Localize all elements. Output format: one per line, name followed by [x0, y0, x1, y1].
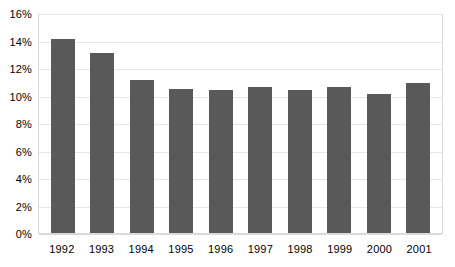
x-axis-tick-label: 1996	[208, 243, 233, 255]
bar	[90, 53, 114, 233]
bar	[327, 87, 351, 233]
bar	[130, 80, 154, 233]
bar-slot	[122, 15, 162, 233]
x-axis-tick-label: 2000	[367, 243, 392, 255]
x-axis-tick-slot: 1992	[42, 239, 82, 257]
x-axis-tick-slot: 1994	[121, 239, 161, 257]
x-axis-tick-label: 1997	[248, 243, 273, 255]
x-axis-tick-slot: 1996	[201, 239, 241, 257]
y-axis-tick-label: 12%	[9, 63, 32, 75]
x-axis-tick-label: 2001	[407, 243, 432, 255]
x-axis: 1992199319941995199619971998199920002001	[38, 239, 443, 257]
y-axis-tick-label: 8%	[16, 118, 32, 130]
gridline	[39, 234, 442, 235]
bar	[367, 94, 391, 233]
y-axis-tick-label: 0%	[16, 228, 32, 240]
x-axis-tick-label: 1998	[287, 243, 312, 255]
bar	[406, 83, 430, 233]
x-axis-tick-slot: 1993	[82, 239, 122, 257]
x-axis-tick-slot: 2000	[360, 239, 400, 257]
bar-chart: 0%2%4%6%8%10%12%14%16% 19921993199419951…	[0, 0, 455, 267]
bar-slot	[201, 15, 241, 233]
x-axis-tick-label: 1995	[168, 243, 193, 255]
x-axis-tick-label: 1999	[327, 243, 352, 255]
x-axis-tick-slot: 1997	[241, 239, 281, 257]
bar-slot	[43, 15, 83, 233]
bar-slot	[399, 15, 439, 233]
y-axis-tick-label: 4%	[16, 173, 32, 185]
y-axis-tick-label: 2%	[16, 201, 32, 213]
bar-slot	[359, 15, 399, 233]
bar-slot	[241, 15, 281, 233]
y-axis-tick-label: 14%	[9, 36, 32, 48]
bar	[51, 39, 75, 233]
bar-series	[39, 15, 442, 233]
bar-slot	[162, 15, 202, 233]
x-axis-tick-slot: 1998	[280, 239, 320, 257]
x-axis-tick-label: 1992	[49, 243, 74, 255]
x-axis-tick-slot: 1999	[320, 239, 360, 257]
plot-area	[38, 14, 443, 234]
bar	[248, 87, 272, 233]
bar-slot	[320, 15, 360, 233]
x-axis-tick-slot: 1995	[161, 239, 201, 257]
bar-slot	[83, 15, 123, 233]
x-axis-tick-label: 1994	[129, 243, 154, 255]
bar-slot	[280, 15, 320, 233]
x-axis-tick-label: 1993	[89, 243, 114, 255]
x-axis-tick-slot: 2001	[399, 239, 439, 257]
bar	[209, 90, 233, 233]
bar	[169, 89, 193, 233]
y-axis-tick-label: 10%	[9, 91, 32, 103]
y-axis: 0%2%4%6%8%10%12%14%16%	[0, 14, 36, 234]
bar	[288, 90, 312, 233]
y-axis-tick-label: 6%	[16, 146, 32, 158]
y-axis-tick-label: 16%	[9, 8, 32, 20]
